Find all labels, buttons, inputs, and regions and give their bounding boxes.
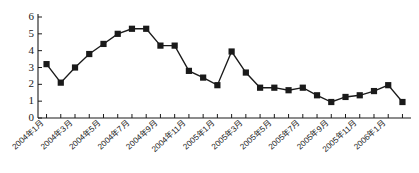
y-tick-label: 1: [29, 94, 35, 106]
data-point-marker: [399, 99, 405, 105]
data-point-marker: [328, 99, 334, 105]
x-tick-label: 2006年1月: [352, 118, 388, 151]
y-tick-label: 6: [29, 10, 35, 22]
data-point-marker: [371, 88, 377, 94]
data-point-marker: [229, 48, 235, 54]
data-point-marker: [186, 68, 192, 74]
data-point-marker: [129, 26, 135, 32]
data-point-marker: [115, 31, 121, 37]
data-point-marker: [342, 94, 348, 100]
y-tick-label: 0: [29, 111, 35, 123]
data-point-marker: [300, 85, 306, 91]
data-point-marker: [43, 61, 49, 67]
y-tick-label: 2: [29, 77, 35, 89]
chart-plot-area: 01234562004年1月2004年3月2004年5月2004年7月2004年…: [0, 0, 419, 173]
data-point-marker: [86, 51, 92, 57]
y-tick-label: 3: [29, 61, 35, 73]
data-point-marker: [157, 43, 163, 49]
data-point-marker: [314, 92, 320, 98]
data-point-marker: [357, 92, 363, 98]
y-tick-label: 4: [29, 44, 35, 56]
data-point-marker: [285, 87, 291, 93]
data-point-marker: [271, 85, 277, 91]
data-point-marker: [58, 80, 64, 86]
data-point-marker: [100, 41, 106, 47]
data-point-marker: [172, 43, 178, 49]
y-tick-label: 5: [29, 27, 35, 39]
data-point-marker: [143, 26, 149, 32]
data-point-marker: [243, 69, 249, 75]
data-point-marker: [385, 82, 391, 88]
data-series-line: [47, 29, 403, 102]
data-point-marker: [214, 82, 220, 88]
data-point-marker: [200, 75, 206, 81]
data-point-marker: [72, 64, 78, 70]
data-point-marker: [257, 85, 263, 91]
line-chart: 01234562004年1月2004年3月2004年5月2004年7月2004年…: [0, 0, 419, 173]
